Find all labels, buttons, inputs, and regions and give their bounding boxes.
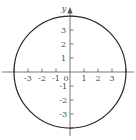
y-tick-label--3: -3 (59, 110, 67, 119)
x-tick-label--3: -3 (24, 74, 32, 83)
x-tick-label-3: 3 (109, 74, 114, 83)
x-tick-label-1: 1 (81, 74, 86, 83)
x-tick-label--2: -2 (38, 74, 46, 83)
y-tick-label-3: 3 (61, 26, 66, 35)
y-tick-label--2: -2 (59, 96, 67, 105)
y-axis-label: y (61, 4, 67, 13)
y-tick-label-1: 1 (61, 54, 66, 63)
y-axis-arrow-icon (67, 7, 72, 14)
plot-canvas: y 0 -3 -2 -1 1 2 3 3 2 1 -1 -2 -3 (0, 0, 136, 140)
circle-plot-figure: y 0 -3 -2 -1 1 2 3 3 2 1 -1 -2 -3 (0, 0, 136, 140)
y-tick-label-2: 2 (61, 40, 66, 49)
y-tick-label--1: -1 (59, 82, 67, 91)
x-tick-label-2: 2 (95, 74, 100, 83)
